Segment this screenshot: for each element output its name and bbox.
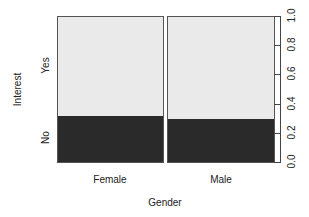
x-label-male: Male xyxy=(191,174,251,185)
panel-male xyxy=(167,16,275,163)
tick-0-6 xyxy=(274,74,280,75)
tick-1 xyxy=(274,16,280,17)
tick-label-0: 0.0 xyxy=(286,147,297,177)
tick-0-4 xyxy=(274,104,280,105)
segment-male-no xyxy=(168,119,274,163)
y-axis-title: Interest xyxy=(12,65,23,115)
tick-label-1: 1.0 xyxy=(286,1,297,31)
right-axis-line xyxy=(280,16,281,163)
panel-female xyxy=(57,16,164,163)
x-label-female: Female xyxy=(80,174,140,185)
segment-female-no xyxy=(58,116,163,162)
tick-label-0-4: 0.4 xyxy=(286,89,297,119)
level-label-yes: Yes xyxy=(40,51,51,81)
tick-label-0-2: 0.2 xyxy=(286,118,297,148)
tick-label-0-8: 0.8 xyxy=(286,30,297,60)
level-label-no: No xyxy=(40,123,51,153)
tick-0-2 xyxy=(274,133,280,134)
x-axis-title: Gender xyxy=(135,197,195,208)
tick-0 xyxy=(274,162,280,163)
tick-label-0-6: 0.6 xyxy=(286,59,297,89)
tick-0-8 xyxy=(274,45,280,46)
